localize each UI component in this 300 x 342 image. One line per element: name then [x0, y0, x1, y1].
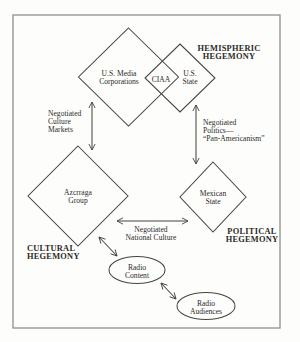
hegemony-flow-diagram: U.S. MediaCorporationsU.S.StateCIAAAzcrr… — [0, 0, 300, 342]
document-page: U.S. MediaCorporationsU.S.StateCIAAAzcrr… — [0, 0, 300, 342]
label-ciaa: CIAA — [152, 75, 171, 84]
label-cultural-hegemony: CULTURALHEGEMONY — [27, 244, 80, 262]
label-us-state: U.S.State — [182, 69, 198, 86]
label-political-hegemony: POLITICALHEGEMONY — [226, 227, 279, 245]
label-hemispheric-hegemony: HEMISPHERICHEGEMONY — [197, 44, 260, 62]
label-us-media-corporations: U.S. MediaCorporations — [99, 69, 139, 86]
